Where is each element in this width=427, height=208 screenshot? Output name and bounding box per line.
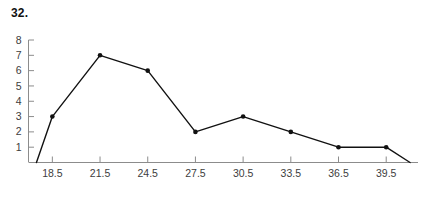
y-tick-label: 4: [16, 95, 22, 107]
x-axis-ticks: [52, 157, 386, 163]
y-tick-label: 7: [16, 49, 22, 61]
y-tick-label: 6: [16, 64, 22, 76]
y-axis-group: 12345678: [16, 34, 34, 162]
x-tick-label: 39.5: [376, 167, 397, 179]
x-tick-label: 21.5: [90, 167, 111, 179]
x-tick-label: 18.5: [42, 167, 63, 179]
y-tick-label: 1: [16, 141, 22, 153]
x-tick-label: 33.5: [281, 167, 302, 179]
x-axis-group: 18.521.524.527.530.533.536.539.5: [29, 157, 419, 179]
frequency-polygon-chart: 12345678 18.521.524.527.530.533.536.539.…: [0, 0, 427, 208]
x-tick-label: 27.5: [185, 167, 206, 179]
x-tick-label: 24.5: [138, 167, 159, 179]
y-tick-label: 5: [16, 80, 22, 92]
x-tick-label: 36.5: [328, 167, 349, 179]
data-point-marker: [145, 68, 150, 73]
data-point-marker: [98, 53, 103, 58]
y-axis-tick-labels: 12345678: [16, 34, 22, 153]
figure-container: 32. 12345678 18.521.524.527.530.533.536.…: [0, 0, 427, 208]
data-point-marker: [336, 145, 341, 150]
y-tick-label: 8: [16, 34, 22, 46]
y-tick-label: 3: [16, 110, 22, 122]
data-point-marker: [384, 145, 389, 150]
data-line-series: [36, 55, 410, 162]
y-tick-label: 2: [16, 125, 22, 137]
data-point-marker: [193, 130, 198, 135]
x-axis-tick-labels: 18.521.524.527.530.533.536.539.5: [42, 167, 396, 179]
data-point-marker: [241, 114, 246, 119]
data-point-marker: [50, 114, 55, 119]
x-tick-label: 30.5: [233, 167, 254, 179]
y-axis-ticks: [29, 40, 35, 147]
data-point-marker: [289, 130, 294, 135]
data-point-markers: [50, 53, 388, 149]
